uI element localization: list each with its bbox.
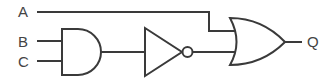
logic-circuit-diagram: A B C Q <box>0 0 336 84</box>
not-bubble <box>183 47 193 57</box>
and-gate <box>62 29 101 75</box>
not-gate <box>145 28 182 76</box>
input-label-c: C <box>18 53 29 70</box>
input-label-b: B <box>18 33 28 50</box>
or-gate <box>230 18 285 65</box>
input-label-a: A <box>18 3 28 20</box>
output-label-q: Q <box>307 33 319 50</box>
